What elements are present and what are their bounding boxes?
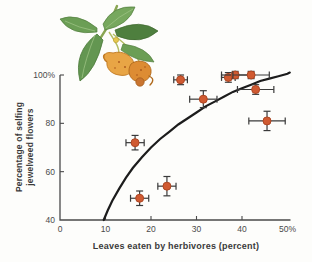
y-tick-label: 40 xyxy=(46,215,56,225)
data-point xyxy=(247,71,255,79)
x-tick-label: 30 xyxy=(192,224,202,234)
y-axis-label-line1: Percentage of selfing xyxy=(14,102,24,192)
data-point-group xyxy=(126,135,144,150)
data-point xyxy=(252,86,260,94)
flower-petal xyxy=(136,78,144,86)
x-tick-label: 10 xyxy=(101,224,111,234)
flower-bud xyxy=(113,37,118,42)
x-tick-label: 20 xyxy=(146,224,156,234)
data-point-group xyxy=(237,85,273,95)
data-point xyxy=(136,194,144,202)
leaf xyxy=(78,34,103,81)
x-axis-label: Leaves eaten by herbivores (percent) xyxy=(60,241,292,251)
x-tick-label: 0 xyxy=(58,224,63,234)
x-tick-label: 40 xyxy=(237,224,247,234)
data-point-group xyxy=(131,191,149,206)
y-axis-label: Percentage of selfing jewelweed flowers xyxy=(14,72,36,222)
y-tick-label: 60 xyxy=(46,167,56,177)
jewelweed-plant-illustration xyxy=(55,4,170,99)
y-axis-label-line2: jewelweed flowers xyxy=(25,108,35,186)
data-point-group xyxy=(249,111,285,130)
leaf xyxy=(115,24,158,40)
data-point xyxy=(131,139,139,147)
data-point-group xyxy=(174,75,188,85)
data-point xyxy=(163,182,171,190)
data-point xyxy=(199,95,207,103)
jewelweed-selfing-figure: 01020304050%100%806040 Percentage of sel… xyxy=(0,0,312,262)
data-point xyxy=(177,76,185,84)
data-point xyxy=(263,117,271,125)
data-point-group xyxy=(190,91,217,108)
y-tick-label: 100% xyxy=(33,70,55,80)
data-point-group xyxy=(158,177,176,196)
y-tick-label: 80 xyxy=(46,118,56,128)
x-tick-label: 50% xyxy=(279,224,296,234)
